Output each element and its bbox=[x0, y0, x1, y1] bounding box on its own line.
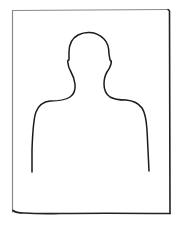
portrait-placeholder-icon bbox=[0, 0, 183, 234]
person-silhouette bbox=[32, 32, 149, 172]
portrait-placeholder bbox=[0, 0, 183, 234]
